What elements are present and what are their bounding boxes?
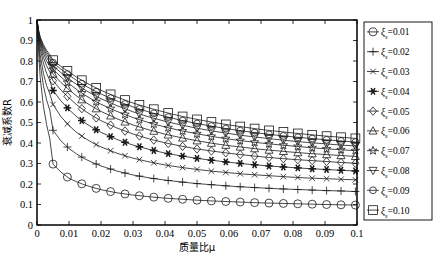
legend: ξs=0.01ξs=0.02ξs=0.03ξs=0.04ξs=0.05ξs=0.… <box>364 22 432 220</box>
x-tick-label: 0.07 <box>252 228 270 239</box>
marker-star6-core <box>296 166 299 169</box>
x-tick-label: 0.09 <box>316 228 334 239</box>
y-tick-label: 0.9 <box>20 35 33 46</box>
x-tick-label: 0.04 <box>156 228 175 239</box>
x-tick-label: 0.1 <box>350 228 363 239</box>
marker-star6-core <box>80 119 83 122</box>
y-tick-label: 1 <box>28 15 33 26</box>
marker-star6-core <box>138 145 141 148</box>
y-tick-label: 0 <box>28 220 33 231</box>
x-tick-label: 0.06 <box>220 228 238 239</box>
marker-star6-core <box>51 89 54 92</box>
marker-star6-core <box>210 159 213 162</box>
x-axis-title: 质量比μ <box>179 242 216 253</box>
marker-star6-core <box>239 162 242 165</box>
marker-star6-core <box>167 152 170 155</box>
y-tick-label: 0.7 <box>20 76 33 87</box>
marker-star6-core <box>95 128 98 131</box>
marker-star6-core <box>267 164 270 167</box>
x-tick-label: 0.08 <box>284 228 302 239</box>
y-tick-label: 0.8 <box>20 56 33 67</box>
marker-star6-core <box>371 90 374 93</box>
y-axis-title: 衰减系数R <box>1 99 13 146</box>
chart-svg: 00.010.020.030.040.050.060.070.080.090.1… <box>0 0 435 268</box>
y-tick-label: 0.6 <box>20 97 33 108</box>
marker-star6-core <box>253 163 256 166</box>
x-tick-label: 0.03 <box>124 228 142 239</box>
x-tick-label: 0.01 <box>60 228 78 239</box>
y-tick-label: 0.1 <box>20 199 33 210</box>
y-tick-label: 0.5 <box>20 117 33 128</box>
marker-star6-core <box>109 135 112 138</box>
x-tick-label: 0.02 <box>92 228 110 239</box>
marker-star6-core <box>181 155 184 158</box>
marker-star6-core <box>195 157 198 160</box>
marker-star6-core <box>282 165 285 168</box>
x-tick-label: 0 <box>34 228 39 239</box>
marker-star6-core <box>66 106 69 109</box>
marker-star6-core <box>123 141 126 144</box>
marker-star6-core <box>311 167 314 170</box>
y-tick-label: 0.2 <box>20 179 33 190</box>
marker-star6-core <box>339 169 342 172</box>
y-tick-label: 0.4 <box>20 138 34 149</box>
y-tick-label: 0.3 <box>20 158 33 169</box>
marker-star6-core <box>224 160 227 163</box>
x-tick-label: 0.05 <box>188 228 206 239</box>
marker-star6-core <box>152 149 155 152</box>
chart-figure: 00.010.020.030.040.050.060.070.080.090.1… <box>0 0 435 268</box>
marker-star6-core <box>325 168 328 171</box>
